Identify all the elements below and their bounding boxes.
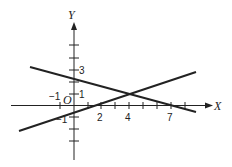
x-axis-arrow-icon — [205, 103, 213, 109]
y-axis-label: Y — [68, 8, 76, 22]
x-tick-label-7: 7 — [167, 112, 173, 123]
origin-label: O — [63, 93, 72, 107]
y-axis-arrow-icon — [71, 22, 77, 30]
x-tick-label-4: 4 — [125, 112, 131, 123]
y-tick-label-neg1: −1 — [56, 114, 68, 125]
x-tick-label-neg1: −1 — [49, 91, 61, 102]
coordinate-diagram: Y X O 3 1 −1 −1 2 4 7 — [0, 0, 232, 167]
y-tick-label-3: 3 — [79, 65, 85, 76]
x-tick-label-2: 2 — [97, 112, 103, 123]
x-axis-label: X — [213, 99, 222, 113]
y-tick-label-1: 1 — [79, 89, 85, 100]
